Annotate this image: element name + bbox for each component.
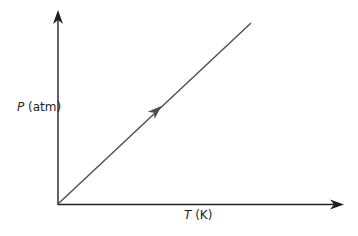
- y-axis-unit: (atm): [28, 100, 61, 114]
- x-axis-label: T (K): [184, 208, 212, 222]
- y-axis-label: P (atm): [17, 100, 61, 114]
- x-axis-symbol: T: [184, 208, 191, 222]
- x-axis-unit: (K): [195, 208, 212, 222]
- pt-diagram: [0, 0, 358, 236]
- y-axis-symbol: P: [17, 100, 24, 114]
